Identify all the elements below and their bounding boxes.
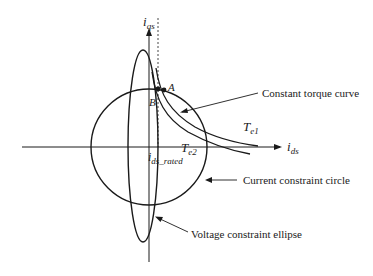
point-a-label: A	[167, 81, 175, 93]
pmsm-operating-diagram: iqs ids ids_rated A B Te1 Te2 Constant t…	[0, 0, 373, 276]
ids-rated-label: ids_rated	[148, 150, 183, 166]
ellipse-leader-arrow-icon	[155, 217, 163, 223]
iqs-axis-label: iqs	[143, 14, 155, 31]
ids-axis-label: ids	[287, 139, 299, 156]
current-circle-annotation: Current constraint circle	[243, 174, 350, 186]
point-b-marker	[156, 87, 161, 92]
circle-leader-arrow-icon	[205, 177, 212, 183]
te2-label: Te2	[181, 140, 197, 157]
ellipse-leader	[158, 218, 188, 232]
torque-leader-arrow-icon	[180, 108, 188, 113]
point-b-label: B	[149, 96, 156, 108]
torque-curve-te1	[156, 68, 258, 146]
voltage-ellipse-annotation: Voltage constraint ellipse	[191, 228, 302, 240]
ids-axis-arrow-icon	[274, 144, 282, 150]
point-a-marker	[162, 88, 167, 93]
torque-curve-annotation: Constant torque curve	[262, 87, 359, 99]
te1-label: Te1	[243, 119, 259, 136]
torque-curve-leader	[182, 93, 258, 112]
